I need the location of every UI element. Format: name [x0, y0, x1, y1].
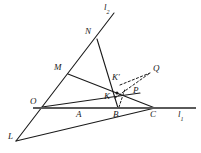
point-label-Q: Q — [153, 64, 160, 73]
point-label-P: P — [133, 86, 139, 95]
figure-canvas — [0, 0, 201, 153]
point-label-A: A — [76, 110, 82, 119]
point-label-M: M — [54, 63, 62, 72]
solid-segments — [16, 13, 196, 141]
vertex-dots — [116, 92, 119, 95]
point-label-K-prime: K′ — [112, 73, 120, 82]
l2-subscript: 2 — [107, 9, 110, 15]
dashed-segment-Kprime-Q — [120, 73, 150, 85]
point-label-L: L — [8, 132, 13, 141]
segment-O-through-K-to-P — [42, 93, 140, 107]
prime-mark: ′ — [118, 73, 120, 82]
point-label-B: B — [113, 110, 119, 119]
l1-subscript: 1 — [181, 116, 184, 122]
point-label-N: N — [85, 27, 91, 36]
point-label-K: K — [104, 92, 110, 101]
line-label-l2: l2 — [104, 3, 110, 14]
dashed-segment-B-Kprime — [119, 89, 125, 107]
vertex-dot-K — [116, 92, 119, 95]
point-label-C: C — [150, 110, 156, 119]
point-label-O: O — [30, 97, 37, 106]
geometry-figure: L O M N A B C K K′ P Q l1 l2 — [0, 0, 201, 153]
line-label-l1: l1 — [178, 110, 184, 121]
line-l2 — [16, 13, 114, 141]
